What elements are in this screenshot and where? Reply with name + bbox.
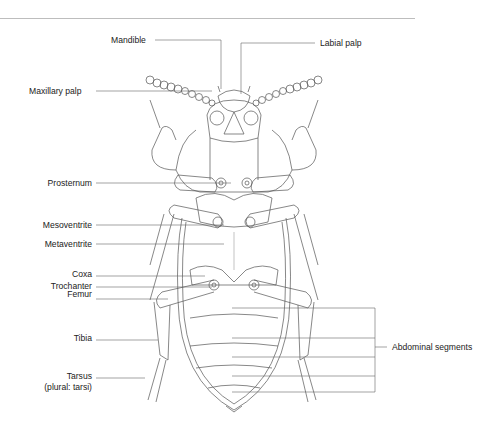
leader-mandible: [155, 40, 221, 89]
label-femur: Femur: [67, 289, 92, 299]
label-maxillary-palp: Maxillary palp: [29, 86, 82, 96]
leader-labial-palp: [241, 43, 315, 94]
beetle-diagram: [0, 0, 504, 435]
label-abdominal-segments: Abdominal segments: [392, 342, 472, 352]
label-metaventrite: Metaventrite: [45, 239, 92, 249]
label-coxa: Coxa: [72, 269, 92, 279]
label-prosternum: Prosternum: [48, 178, 92, 188]
label-mesoventrite: Mesoventrite: [43, 220, 92, 230]
leader-lines: [96, 40, 387, 392]
leader-abdominal-segments: [232, 308, 387, 392]
label-tarsus-plural: (plural: tarsi): [44, 382, 92, 392]
antenna-right: [253, 76, 322, 106]
label-mandible: Mandible: [111, 35, 146, 45]
label-labial-palp: Labial palp: [320, 38, 362, 48]
label-tibia: Tibia: [74, 333, 92, 343]
label-tarsus: Tarsus: [67, 371, 92, 381]
